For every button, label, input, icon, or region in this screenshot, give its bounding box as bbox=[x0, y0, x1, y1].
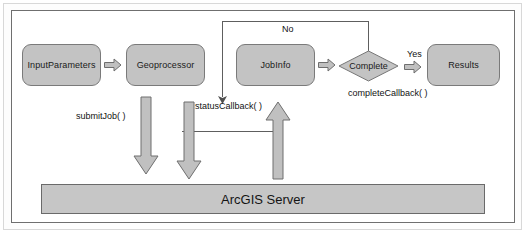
no-loop-horizontal bbox=[222, 21, 369, 22]
block-arrow-submit-job-down-icon bbox=[133, 96, 159, 176]
edge-label-no: No bbox=[282, 24, 294, 34]
edge-label-submit-job: submitJob( ) bbox=[76, 111, 126, 121]
node-results-label: Results bbox=[448, 60, 479, 70]
node-results[interactable]: Results bbox=[427, 44, 500, 86]
arrow-complete-to-results-icon bbox=[404, 60, 422, 74]
node-complete-label: Complete bbox=[338, 50, 399, 82]
block-arrow-status-request-down-icon bbox=[176, 101, 202, 181]
node-complete-decision[interactable]: Complete bbox=[338, 50, 399, 82]
arrow-input-to-geoprocessor-icon bbox=[104, 58, 122, 72]
no-loop-vertical-right bbox=[368, 21, 369, 52]
diagram-canvas: No InputParameters Geoprocessor JobInfo … bbox=[0, 0, 527, 234]
node-geoprocessor-label: Geoprocessor bbox=[137, 60, 195, 70]
node-input-parameters[interactable]: InputParameters bbox=[22, 44, 101, 86]
node-arcgis-server[interactable]: ArcGIS Server bbox=[41, 184, 485, 214]
node-geoprocessor[interactable]: Geoprocessor bbox=[126, 44, 205, 86]
node-job-info-label: JobInfo bbox=[260, 60, 290, 70]
no-loop-vertical-left bbox=[222, 21, 223, 97]
edge-label-complete-callback: completeCallback( ) bbox=[348, 88, 428, 98]
node-input-parameters-label: InputParameters bbox=[27, 60, 95, 70]
arrow-jobinfo-to-complete-icon bbox=[318, 58, 336, 72]
edge-label-yes: Yes bbox=[407, 49, 422, 59]
block-arrow-status-response-up-icon bbox=[265, 101, 291, 181]
edge-label-status-callback: statusCallback( ) bbox=[195, 101, 262, 111]
node-arcgis-server-label: ArcGIS Server bbox=[221, 192, 305, 207]
node-job-info[interactable]: JobInfo bbox=[236, 44, 315, 86]
